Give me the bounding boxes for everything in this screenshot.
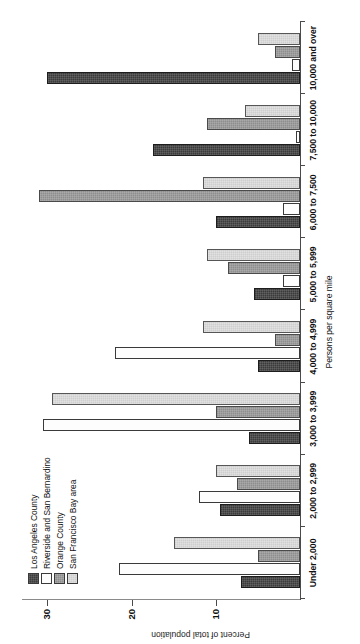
bar[interactable] — [283, 203, 300, 215]
bar[interactable] — [258, 550, 300, 562]
bar[interactable] — [228, 262, 300, 274]
bar[interactable] — [258, 360, 300, 372]
bar-group — [22, 94, 300, 166]
legend-item-label: Los Angeles County — [29, 495, 39, 570]
bar[interactable] — [174, 537, 300, 549]
legend-swatch-icon — [41, 573, 52, 584]
bar[interactable] — [47, 72, 300, 84]
x-axis-category-label: 7,500 to 10,000 — [308, 100, 318, 161]
bar[interactable] — [283, 275, 300, 287]
x-axis-line — [300, 22, 301, 600]
bar[interactable] — [237, 478, 300, 490]
bar-group — [22, 22, 300, 94]
bar-group — [22, 383, 300, 455]
y-axis-tick-label: 10 — [210, 609, 221, 620]
bar[interactable] — [241, 576, 300, 588]
bar[interactable] — [258, 33, 300, 45]
y-axis-tick: 30 — [47, 600, 48, 606]
x-axis-title: Persons per square mile — [324, 0, 334, 644]
y-axis-line — [22, 599, 300, 600]
chart-legend: Los Angeles CountyRiverside and San Bern… — [28, 457, 78, 584]
y-axis-tick-label: 30 — [41, 609, 52, 620]
bar-group — [22, 166, 300, 238]
bar[interactable] — [199, 491, 300, 503]
legend-item[interactable]: Orange County — [54, 457, 65, 584]
x-axis-tick — [300, 310, 305, 311]
bar-chart: Percent of total population 102030 Under… — [0, 0, 360, 644]
legend-swatch-icon — [28, 573, 39, 584]
bar[interactable] — [115, 347, 300, 359]
x-axis-tick — [300, 93, 305, 94]
y-axis-tick: 10 — [216, 600, 217, 606]
x-axis-category-label: 3,000 to 3,999 — [308, 391, 318, 447]
bar[interactable] — [275, 334, 300, 346]
legend-item-label: San Francisco Bay area — [68, 480, 78, 569]
bar[interactable] — [220, 504, 300, 516]
legend-item-label: Riverside and San Bernardino — [42, 457, 52, 569]
legend-item[interactable]: Riverside and San Bernardino — [41, 457, 52, 584]
bar[interactable] — [245, 105, 300, 117]
y-axis-tick: 20 — [132, 600, 133, 606]
bar-group — [22, 238, 300, 310]
bar[interactable] — [249, 432, 300, 444]
bar-group — [22, 311, 300, 383]
bar[interactable] — [119, 563, 300, 575]
x-axis-category-label: 2,000 to 2,999 — [308, 463, 318, 519]
legend-swatch-icon — [54, 573, 65, 584]
x-axis-category-label: 10,000 and over — [308, 26, 318, 91]
bar[interactable] — [216, 465, 300, 477]
x-axis-tick — [300, 454, 305, 455]
x-axis-tick — [300, 21, 305, 22]
legend-item[interactable]: Los Angeles County — [28, 457, 39, 584]
x-axis-tick — [300, 237, 305, 238]
bar[interactable] — [207, 249, 300, 261]
legend-item[interactable]: San Francisco Bay area — [67, 457, 78, 584]
x-axis-tick — [300, 165, 305, 166]
bar[interactable] — [207, 118, 300, 130]
x-axis-category-label: 5,000 to 5,999 — [308, 246, 318, 302]
legend-item-label: Orange County — [55, 512, 65, 569]
y-axis-title: Percent of total population — [0, 630, 250, 640]
bar[interactable] — [39, 190, 300, 202]
bar[interactable] — [43, 419, 300, 431]
x-axis-tick — [300, 598, 305, 599]
bar[interactable] — [216, 216, 300, 228]
bar[interactable] — [216, 406, 300, 418]
bar[interactable] — [203, 321, 300, 333]
bar[interactable] — [52, 393, 301, 405]
x-axis-category-label: 4,000 to 4,999 — [308, 319, 318, 375]
bar[interactable] — [254, 288, 300, 300]
rotated-chart-wrapper: Percent of total population 102030 Under… — [0, 0, 360, 644]
bar[interactable] — [203, 177, 300, 189]
x-axis-tick — [300, 382, 305, 383]
bar[interactable] — [292, 59, 300, 71]
legend-swatch-icon — [67, 573, 78, 584]
x-axis-tick — [300, 526, 305, 527]
y-axis-tick-label: 20 — [126, 609, 137, 620]
x-axis-category-label: Under 2,000 — [308, 539, 318, 588]
bar[interactable] — [275, 46, 300, 58]
x-axis-category-label: 6,000 to 7,500 — [308, 174, 318, 230]
bar[interactable] — [153, 144, 300, 156]
bar[interactable] — [296, 131, 300, 143]
